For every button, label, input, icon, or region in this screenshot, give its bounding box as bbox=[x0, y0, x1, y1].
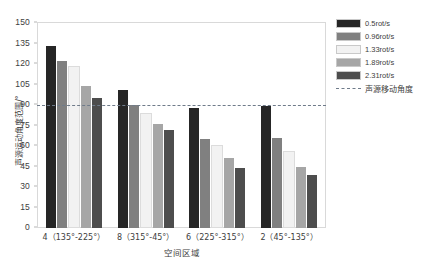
bar[interactable] bbox=[224, 158, 234, 228]
legend-swatch bbox=[336, 32, 361, 41]
bar-group bbox=[182, 23, 254, 228]
legend-swatch bbox=[336, 45, 361, 54]
x-axis-title: 空间区域 bbox=[37, 246, 326, 258]
legend: 0.5rot/s0.96rot/s1.33rot/s1.89rot/s2.31r… bbox=[336, 17, 424, 95]
bar[interactable] bbox=[307, 175, 317, 228]
legend-dash-swatch bbox=[336, 88, 361, 89]
legend-item[interactable]: 2.31rot/s bbox=[336, 69, 424, 81]
legend-swatch bbox=[336, 71, 361, 80]
bar[interactable] bbox=[57, 61, 67, 228]
bar-group bbox=[38, 23, 110, 228]
bar[interactable] bbox=[140, 113, 152, 228]
legend-label: 0.96rot/s bbox=[365, 32, 394, 41]
bar-group bbox=[253, 23, 325, 228]
legend-swatch bbox=[336, 58, 361, 67]
y-axis-tick-label: 0 bbox=[25, 222, 30, 232]
y-axis-tick-mark bbox=[34, 145, 37, 146]
legend-label: 1.89rot/s bbox=[365, 58, 394, 67]
bar[interactable] bbox=[261, 106, 271, 228]
bar[interactable] bbox=[200, 139, 210, 228]
bar[interactable] bbox=[68, 66, 80, 228]
y-axis-tick-mark bbox=[34, 42, 37, 43]
bar-group bbox=[110, 23, 182, 228]
legend-label: 1.33rot/s bbox=[365, 45, 394, 54]
legend-item-reference-line[interactable]: 声源移动角度 bbox=[336, 82, 424, 94]
bar[interactable] bbox=[46, 46, 56, 228]
y-axis-tick-mark bbox=[34, 22, 37, 23]
y-axis-tick-mark bbox=[34, 124, 37, 125]
bars-layer bbox=[38, 23, 325, 228]
bar[interactable] bbox=[235, 168, 245, 228]
legend-label: 2.31rot/s bbox=[365, 71, 394, 80]
bar[interactable] bbox=[118, 90, 128, 228]
y-axis-tick-mark bbox=[34, 63, 37, 64]
x-axis-tick-label: 6（225°-315°） bbox=[186, 231, 249, 242]
legend-label: 0.5rot/s bbox=[365, 19, 390, 28]
chart-container: 0153045607590105120135150 声源运动角度范围/° 4（1… bbox=[0, 0, 425, 267]
bar[interactable] bbox=[211, 145, 223, 228]
y-axis-tick-label: 150 bbox=[15, 17, 30, 27]
legend-label: 声源移动角度 bbox=[365, 83, 413, 94]
legend-item[interactable]: 0.96rot/s bbox=[336, 30, 424, 42]
y-axis-tick-mark bbox=[34, 186, 37, 187]
bar[interactable] bbox=[272, 138, 282, 228]
bar[interactable] bbox=[153, 124, 163, 228]
bar[interactable] bbox=[129, 105, 139, 228]
bar[interactable] bbox=[283, 151, 295, 228]
y-axis-tick-mark bbox=[34, 227, 37, 228]
legend-item[interactable]: 1.89rot/s bbox=[336, 56, 424, 68]
legend-item[interactable]: 0.5rot/s bbox=[336, 17, 424, 29]
y-axis-title: 声源运动角度范围/° bbox=[13, 56, 24, 206]
bar[interactable] bbox=[81, 86, 91, 228]
x-axis-tick-label: 4（135°-225°） bbox=[43, 231, 106, 242]
bar[interactable] bbox=[92, 98, 102, 228]
bar[interactable] bbox=[296, 167, 306, 229]
x-axis: 4（135°-225°）8（315°-45°）6（225°-315°）2（45°… bbox=[38, 231, 325, 245]
y-axis-tick-mark bbox=[34, 206, 37, 207]
bar[interactable] bbox=[189, 108, 199, 228]
legend-swatch bbox=[336, 19, 361, 28]
reference-line bbox=[37, 105, 326, 106]
legend-item[interactable]: 1.33rot/s bbox=[336, 43, 424, 55]
y-axis-tick-mark bbox=[34, 83, 37, 84]
x-axis-tick-label: 2（45°-135°） bbox=[260, 231, 317, 242]
bar[interactable] bbox=[164, 130, 174, 228]
y-axis-tick-label: 135 bbox=[15, 38, 30, 48]
y-axis-tick-mark bbox=[34, 165, 37, 166]
x-axis-tick-label: 8（315°-45°） bbox=[117, 231, 174, 242]
